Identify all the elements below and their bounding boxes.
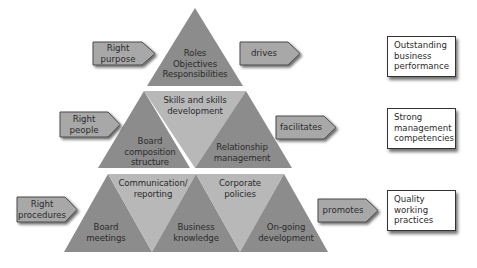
arrow-right-purpose-label: Right purpose: [93, 42, 143, 65]
arrow-drives: drives: [240, 42, 288, 65]
arrow-right-procedures: Right procedures: [17, 197, 67, 222]
outcome-box-business-performance: Outstanding business performance: [387, 36, 456, 77]
label-board-meetings: Board meetings: [86, 222, 125, 243]
arrow-right-procedures-label: Right procedures: [17, 197, 67, 222]
label-relationship-management: Relationship management: [214, 142, 271, 163]
arrow-right-people: Right people: [60, 112, 108, 137]
outcome-box-management-competencies: Strong management competencies: [387, 108, 456, 149]
label-corporate-policies: Corporate policies: [219, 178, 261, 199]
arrow-right-people-label: Right people: [60, 112, 108, 137]
outcome-box-working-practices: Quality working practices: [387, 190, 456, 231]
label-communication-reporting: Communication/ reporting: [118, 178, 187, 199]
label-business-knowledge: Business knowledge: [173, 222, 219, 243]
label-roles-objectives-responsibilities: Roles Objectives Responsibilities: [163, 48, 228, 80]
label-ongoing-development: On-going development: [258, 222, 314, 243]
label-skills-development: Skills and skills development: [163, 95, 226, 116]
label-board-composition: Board composition structure: [124, 136, 175, 168]
arrow-promotes-label: promotes: [318, 199, 368, 222]
arrow-promotes: promotes: [318, 199, 368, 222]
governance-pyramid-diagram: Roles Objectives Responsibilities Skills…: [0, 0, 477, 268]
arrow-right-purpose: Right purpose: [93, 42, 143, 65]
arrow-facilitates-label: facilitates: [276, 116, 326, 139]
arrow-drives-label: drives: [240, 42, 288, 65]
arrow-facilitates: facilitates: [276, 116, 326, 139]
